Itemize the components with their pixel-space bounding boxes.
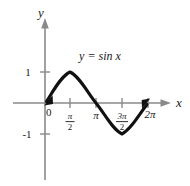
equation-annotation: y = sin x — [78, 49, 121, 63]
origin-label: 0 — [46, 106, 52, 118]
x-axis-label: x — [175, 95, 182, 110]
x-tick-label-pi-over-2: π 2 — [66, 111, 75, 132]
x-tick-label-pi: π — [93, 109, 99, 121]
x-axis-arrowhead — [161, 99, 172, 107]
x-tick-label-3pi-over-2-denominator: 2 — [120, 122, 125, 132]
y-tick-label-minus-one: -1 — [22, 128, 31, 140]
x-tick-label-3pi-over-2: 3π 2 — [116, 111, 128, 132]
x-tick-label-2pi: 2π — [144, 108, 156, 120]
sine-curve-figure: y x 0 1 -1 π 2 π 3π 2 2π y = sin x — [0, 0, 190, 186]
x-tick-label-3pi-over-2-numerator: 3π — [116, 111, 127, 121]
y-tick-label-one: 1 — [25, 66, 31, 78]
graph-canvas: y x 0 1 -1 π 2 π 3π 2 2π y = sin x — [0, 0, 190, 186]
y-axis-label: y — [36, 5, 44, 20]
x-tick-label-pi-over-2-numerator: π — [68, 111, 73, 121]
x-tick-label-pi-over-2-denominator: 2 — [68, 122, 73, 132]
